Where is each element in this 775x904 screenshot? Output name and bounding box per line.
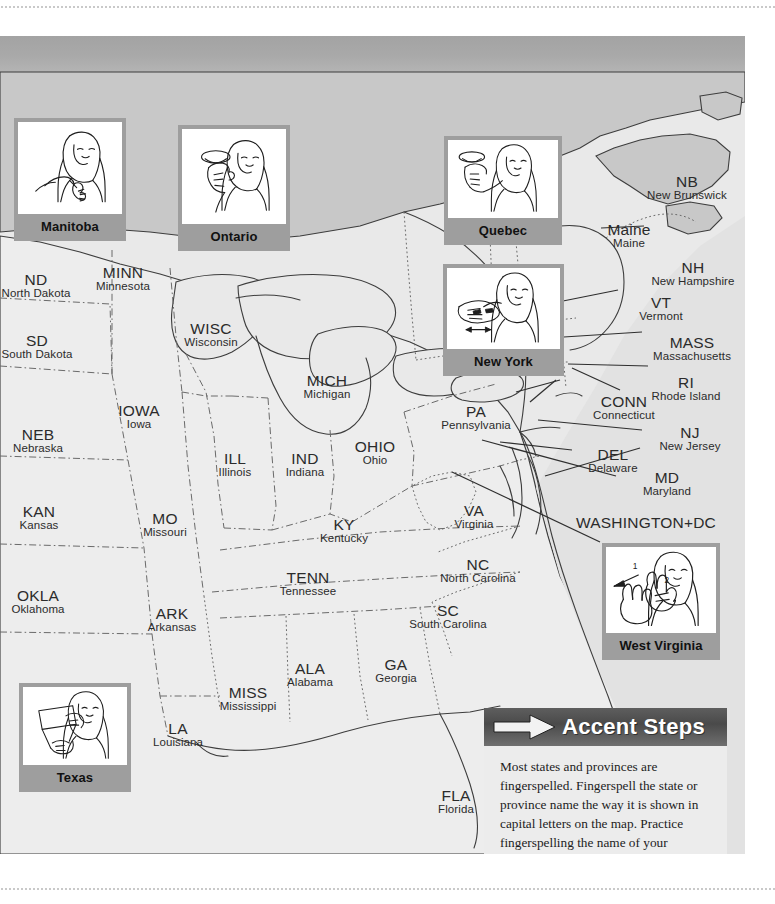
sign-photo [18,122,122,214]
sign-illustration: 1 2 [606,547,708,633]
page-top-rule [0,6,775,8]
page-bottom-rule [0,888,775,890]
sign-card-caption: Quebec [448,218,558,245]
sign-card-caption: Manitoba [18,214,122,241]
sign-illustration [448,140,550,218]
sign-photo [23,687,127,765]
sign-card-caption: Texas [23,765,127,792]
accent-steps-box: Accent Steps Most states and provinces a… [484,708,727,854]
svg-text:1: 1 [633,561,638,571]
sign-photo [448,140,558,218]
sign-illustration [18,122,114,214]
sign-illustration [23,687,119,765]
map-plate: .coast{fill:none;stroke:#3d3d3d;stroke-w… [0,36,745,854]
sign-card-ontario[interactable]: Ontario [178,125,290,251]
sign-card-caption: West Virginia [606,633,716,660]
accent-steps-body: Most states and provinces are fingerspel… [484,746,727,854]
sign-card-new-york[interactable]: New York [443,264,564,376]
sign-illustration [182,129,278,224]
sign-card-texas[interactable]: Texas [19,683,131,792]
sign-photo [447,268,560,349]
sign-photo: 1 2 [606,547,716,633]
sign-photo [182,129,286,224]
sign-card-caption: New York [447,349,560,376]
accent-steps-title: Accent Steps [562,714,705,740]
sign-card-quebec[interactable]: Quebec [444,136,562,245]
arrow-right-icon [492,713,558,741]
sign-card-west-virginia[interactable]: 1 2 West Virginia [602,543,720,660]
page-root: .coast{fill:none;stroke:#3d3d3d;stroke-w… [0,0,775,904]
sign-illustration [447,268,552,349]
sign-card-manitoba[interactable]: Manitoba [14,118,126,241]
sign-card-caption: Ontario [182,224,286,251]
accent-steps-header: Accent Steps [484,708,727,746]
